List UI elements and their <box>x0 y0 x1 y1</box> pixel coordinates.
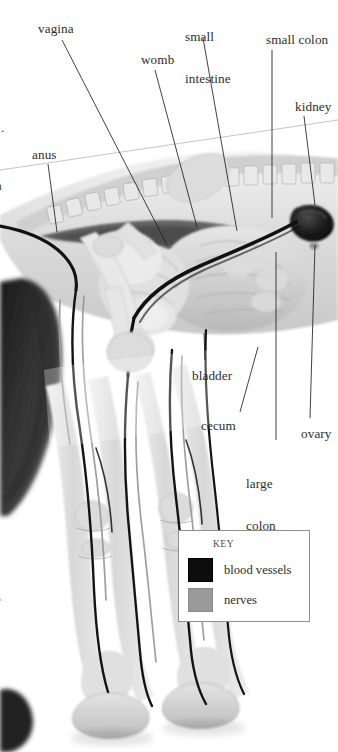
leader-cecum <box>240 347 258 412</box>
left-clip-letter: a <box>0 178 2 194</box>
legend-item-nerves: nerves <box>188 588 257 612</box>
label-small-intestine: small intestine <box>185 2 231 114</box>
label-vagina: vagina <box>38 22 74 37</box>
label-cecum: cecum <box>201 419 236 434</box>
label-small-colon: small colon <box>266 33 328 48</box>
legend-key-box: KEY blood vessels nerves <box>178 530 310 622</box>
leader-bladder <box>204 333 205 360</box>
legend-item-blood-vessels: blood vessels <box>188 558 292 582</box>
leader-lines <box>0 0 338 752</box>
illustration-canvas: vagina small intestine small colon womb … <box>0 0 338 752</box>
blood-vessels-label: blood vessels <box>224 563 292 578</box>
left-period-mark: . <box>1 120 4 136</box>
nerves-label: nerves <box>224 593 257 608</box>
nerves-swatch <box>188 588 213 612</box>
leader-vagina <box>62 40 167 245</box>
leader-kidney <box>304 116 315 205</box>
label-ovary: ovary <box>301 427 332 442</box>
label-small-intestine-line2: intestine <box>185 72 231 86</box>
label-bladder: bladder <box>192 369 232 384</box>
left-clip-letter-2: e <box>0 592 1 608</box>
label-kidney: kidney <box>295 100 332 115</box>
label-small-intestine-line1: small <box>185 30 231 44</box>
label-anus: anus <box>32 148 57 163</box>
label-large-colon-line1: large <box>246 477 276 491</box>
legend-title: KEY <box>213 539 234 549</box>
leader-ovary <box>310 245 315 418</box>
label-womb: womb <box>141 53 174 68</box>
blood-vessels-swatch <box>188 558 213 582</box>
leader-anus <box>48 164 57 232</box>
